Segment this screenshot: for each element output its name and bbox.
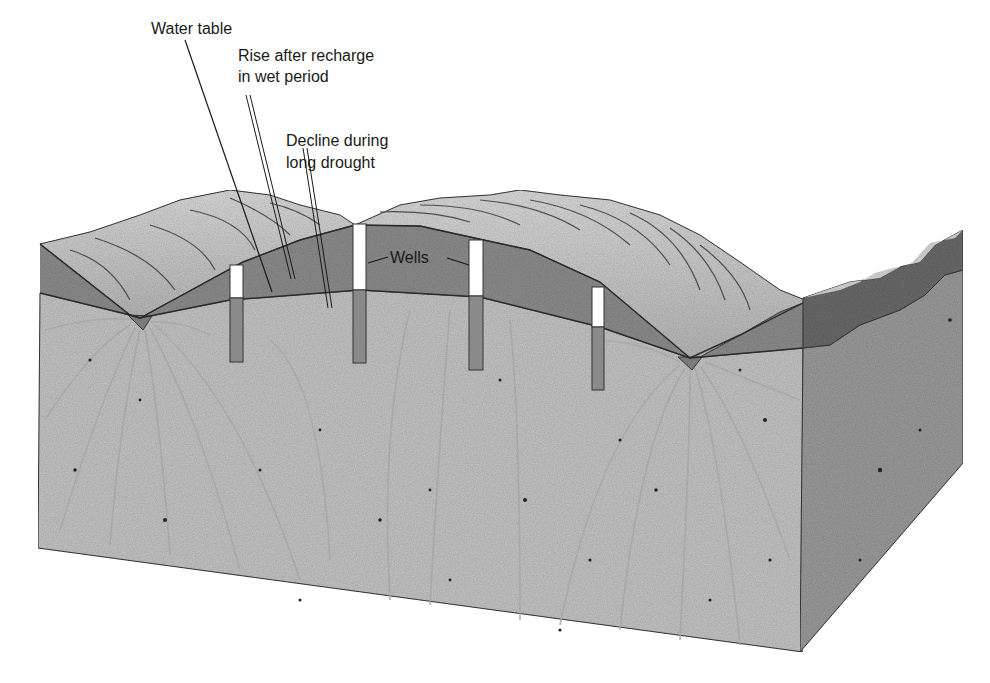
right-face: [800, 230, 963, 652]
well-1: [230, 265, 243, 362]
diagram-stage: Water table Rise after recharge in wet p…: [0, 0, 990, 683]
block-diagram: [0, 0, 990, 683]
label-decline-line2: long drought: [286, 153, 375, 172]
label-water-table: Water table: [151, 19, 232, 38]
label-rise-line2: in wet period: [238, 67, 329, 86]
well-3: [469, 240, 483, 370]
well-2: [353, 224, 366, 363]
label-wells: Wells: [390, 248, 429, 267]
well-4: [592, 287, 604, 390]
label-decline-line1: Decline during: [286, 131, 388, 150]
label-rise-line1: Rise after recharge: [238, 46, 374, 65]
